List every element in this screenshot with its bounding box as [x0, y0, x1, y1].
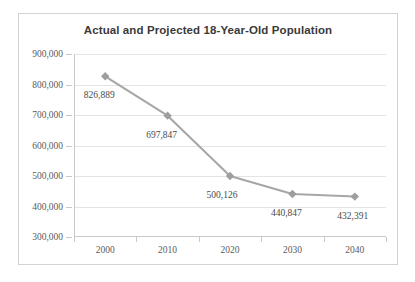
y-axis-tick: [66, 146, 72, 147]
data-point-marker: [351, 192, 359, 200]
y-axis-tick: [66, 115, 72, 116]
x-axis-tick-label: 2020: [221, 245, 240, 255]
data-point-label: 432,391: [337, 211, 368, 221]
x-axis-tick: [74, 237, 75, 242]
x-axis-tick: [324, 237, 325, 242]
y-axis-tick: [66, 237, 72, 238]
x-axis-tick-label: 2040: [345, 245, 364, 255]
x-axis-tick: [261, 237, 262, 242]
x-axis-tick: [136, 237, 137, 242]
data-point-marker: [288, 190, 296, 198]
y-axis-tick: [66, 176, 72, 177]
data-point-label: 500,126: [207, 190, 238, 200]
y-axis-tick-label: 300,000: [32, 232, 63, 242]
series-line-chart: [74, 54, 386, 237]
y-axis-tick: [66, 54, 72, 55]
y-axis-tick-label: 500,000: [32, 171, 63, 181]
plot-area: 300,000400,000500,000600,000700,000800,0…: [74, 54, 386, 237]
y-axis-tick: [66, 85, 72, 86]
chart-title: Actual and Projected 18-Year-Old Populat…: [19, 24, 397, 36]
x-axis-tick-label: 2000: [96, 245, 115, 255]
y-axis-tick: [66, 207, 72, 208]
series-markers-group: [101, 72, 359, 201]
x-axis-tick: [199, 237, 200, 242]
x-axis-tick: [386, 237, 387, 242]
y-axis-tick-label: 400,000: [32, 202, 63, 212]
y-axis-tick-label: 700,000: [32, 110, 63, 120]
x-axis-tick-label: 2030: [283, 245, 302, 255]
y-axis-tick-label: 900,000: [32, 49, 63, 59]
y-axis-tick-label: 800,000: [32, 80, 63, 90]
data-point-label: 440,847: [271, 208, 302, 218]
data-point-label: 697,847: [146, 130, 177, 140]
x-axis-tick-label: 2010: [158, 245, 177, 255]
data-point-label: 826,889: [84, 90, 115, 100]
y-axis-tick-label: 600,000: [32, 141, 63, 151]
chart-frame: Actual and Projected 18-Year-Old Populat…: [18, 13, 398, 265]
